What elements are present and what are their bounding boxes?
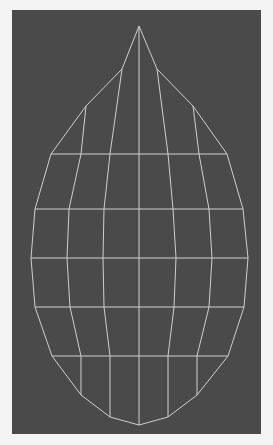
wireframe-mesh bbox=[0, 0, 273, 445]
mesh-column bbox=[157, 69, 176, 417]
outline-right bbox=[139, 26, 248, 425]
mesh-column bbox=[193, 106, 212, 395]
mesh-column bbox=[67, 106, 86, 395]
mesh-column bbox=[103, 69, 122, 417]
outline-left bbox=[31, 26, 139, 425]
